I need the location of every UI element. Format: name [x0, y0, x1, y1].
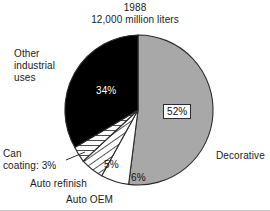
slice-label-can-coating-line1: Can: [3, 148, 73, 160]
slice-label-other-industrial-line1: Other: [14, 48, 76, 60]
slice-label-can-coating: Can coating: 3%: [3, 148, 73, 172]
slice-label-other-industrial: Other industrial uses: [14, 48, 76, 84]
slice-value-auto-refinish: 5%: [104, 159, 119, 170]
slice-value-other-industrial: 34%: [96, 85, 116, 96]
slice-label-other-industrial-line3: uses: [14, 72, 76, 84]
slice-value-decorative: 52%: [163, 104, 191, 119]
slice-label-other-industrial-line2: industrial: [14, 60, 76, 72]
slice-value-auto-oem: 6%: [131, 172, 146, 183]
slice-label-auto-oem: Auto OEM: [66, 194, 113, 206]
slice-label-can-coating-line2: coating: 3%: [3, 160, 73, 172]
pie-chart-figure: 1988 12,000 million liters Other i: [0, 0, 270, 211]
slice-label-auto-refinish: Auto refinish: [30, 178, 87, 190]
slice-label-decorative: Decorative: [216, 150, 265, 162]
